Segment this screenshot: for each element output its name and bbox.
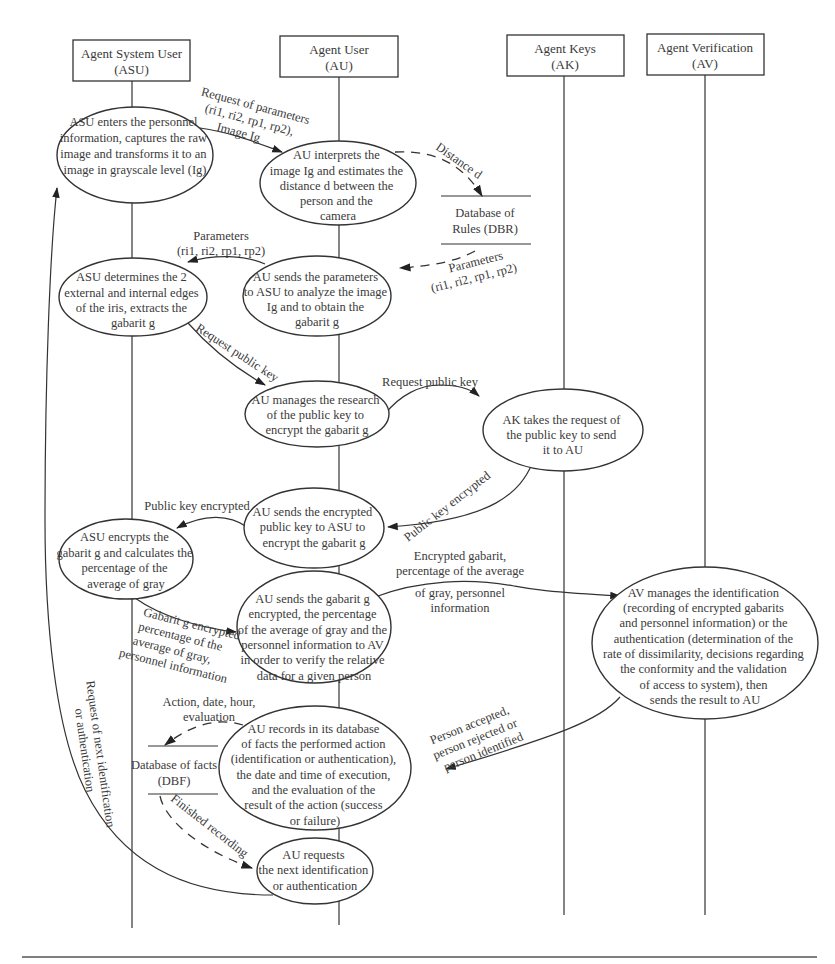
store-label: Database of facts [131,758,217,772]
node-au-sends-gabarit: AU sends the gabarit g encrypted, the pe… [237,571,391,683]
label-request-next: Request of next identification or authen… [68,680,117,832]
agent-abbr: (AU) [325,58,352,73]
node-au-records: AU records in its database of facts the … [219,706,411,830]
store-label: (DBF) [158,774,191,788]
agent-abbr: (AV) [692,56,718,71]
svg-text:Encrypted gabarit,: Encrypted gabarit, [414,549,506,563]
svg-text:AU sends the gabarit g e: AU sends the gabarit g encrypted, the pe… [238,592,390,683]
svg-text:AU manages the research: AU manages the research of the public ke… [251,393,382,437]
svg-text:(ri1, ri2, rp1, rp2): (ri1, ri2, rp1, rp2) [177,244,265,258]
node-au-manages-key: AU manages the research of the public ke… [245,381,389,447]
label-request-public-key-1: Request public key [193,321,282,385]
store-dbf: Database of facts (DBF) [131,746,218,794]
agent-header-au: Agent User (AU) [280,36,398,77]
iris-recognition-agent-diagram: Agent System User (ASU) Agent User (AU) … [0,0,835,964]
svg-text:of gray, personnel: of gray, personnel [415,586,505,600]
label-distance: Distance d [433,140,485,182]
label-public-key-encrypted-1: Public key encrypted [144,499,250,513]
svg-text:information: information [430,601,490,615]
store-dbr: Database of Rules (DBR) [441,196,531,244]
store-label: Database of [455,206,515,220]
agent-name: Agent Verification [657,40,754,55]
svg-text:percentage of the average: percentage of the average [396,564,524,578]
agent-abbr: (ASU) [114,62,149,77]
node-av-manages: AV manages the identification (recording… [592,567,818,719]
store-label: Rules (DBR) [452,222,518,236]
label-public-key-encrypted-2: Public key encrypted [401,468,493,544]
node-au-requests-next: AU requests the next identification or a… [257,838,373,904]
agent-name: Agent System User [81,46,183,61]
node-asu-edges: ASU determines the 2 external and intern… [59,258,207,336]
svg-text:Parameters: Parameters [193,229,249,243]
arrow-request-public-key-2 [385,385,479,414]
agent-header-ak: Agent Keys (AK) [507,35,624,76]
agent-name: Agent User [309,42,369,57]
label-person-result: Person accepted, person rejected or pers… [425,701,526,776]
node-au-sends-key: AU sends the encrypted public key to ASU… [244,488,384,568]
agent-header-av: Agent Verification (AV) [647,34,764,75]
agent-header-asu: Agent System User (ASU) [73,40,190,81]
label-request-public-key-2: Request public key [382,375,479,389]
node-asu-enter: ASU enters the personnel information, ca… [57,107,213,203]
node-au-sends-params: AU sends the parameters to ASU to analyz… [243,256,391,336]
arrow-public-key-encrypted-1 [177,517,247,528]
node-ak-takes: AK takes the request of the public key t… [483,389,643,471]
svg-text:Action, date, hour,: Action, date, hour, [163,695,256,709]
label-action-date: Action, date, hour, evaluation [163,695,256,724]
node-asu-encrypts: ASU encrypts the gabarit g and calculate… [56,519,195,599]
node-au-interpret: AU interprets the image Ig and estimates… [260,141,416,225]
label-params-to-asu: Parameters (ri1, ri2, rp1, rp2) [177,229,265,258]
label-gabarit-encrypted: Gabarit g encrypted percentage of the av… [118,602,243,687]
arrow-finished-recording [160,796,252,868]
svg-text:evaluation: evaluation [183,710,236,724]
agent-name: Agent Keys [534,41,596,56]
svg-text:AU sends the encrypted p: AU sends the encrypted public key to ASU… [253,505,376,550]
agent-abbr: (AK) [551,57,578,72]
